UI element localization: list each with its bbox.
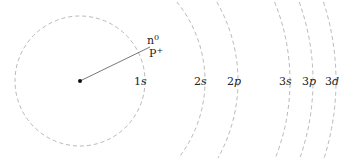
shell-label-3p: 3p xyxy=(302,75,316,88)
shell-label-2p: 2p xyxy=(227,75,241,88)
nucleus-dot xyxy=(78,79,82,83)
orbital-diagram: n0 P+ 1s2s2p3s3p3d xyxy=(0,0,354,160)
shell-label-2s: 2s xyxy=(194,75,207,88)
proton-label: P+ xyxy=(149,46,163,60)
shell-label-3s: 3s xyxy=(279,75,292,88)
shell-labels: 1s2s2p3s3p3d xyxy=(134,75,339,88)
neutron-label: n0 xyxy=(147,33,159,47)
shell-label-1s: 1s xyxy=(134,75,147,88)
shell-label-3d: 3d xyxy=(325,75,339,88)
